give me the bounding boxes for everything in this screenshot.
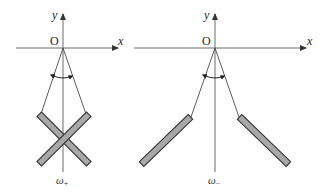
right-panel: y x O ω− bbox=[134, 8, 313, 188]
origin-label: O bbox=[50, 34, 59, 48]
x-axis-label: x bbox=[306, 34, 313, 48]
physics-diagram: y x O ω+ y x O bbox=[0, 0, 328, 194]
omega-minus-label: ω− bbox=[208, 174, 221, 188]
string-right bbox=[215, 48, 239, 117]
omega-plus-label: ω+ bbox=[56, 174, 69, 188]
y-axis-label: y bbox=[51, 8, 58, 22]
string-left bbox=[40, 48, 63, 117]
left-panel: y x O ω+ bbox=[16, 8, 124, 188]
x-axis-label: x bbox=[117, 34, 124, 48]
string-left bbox=[191, 48, 215, 117]
origin-label: O bbox=[202, 34, 211, 48]
y-axis-label: y bbox=[203, 8, 210, 22]
rod-left bbox=[139, 115, 192, 167]
rod-right bbox=[237, 115, 290, 167]
string-right bbox=[63, 48, 87, 117]
